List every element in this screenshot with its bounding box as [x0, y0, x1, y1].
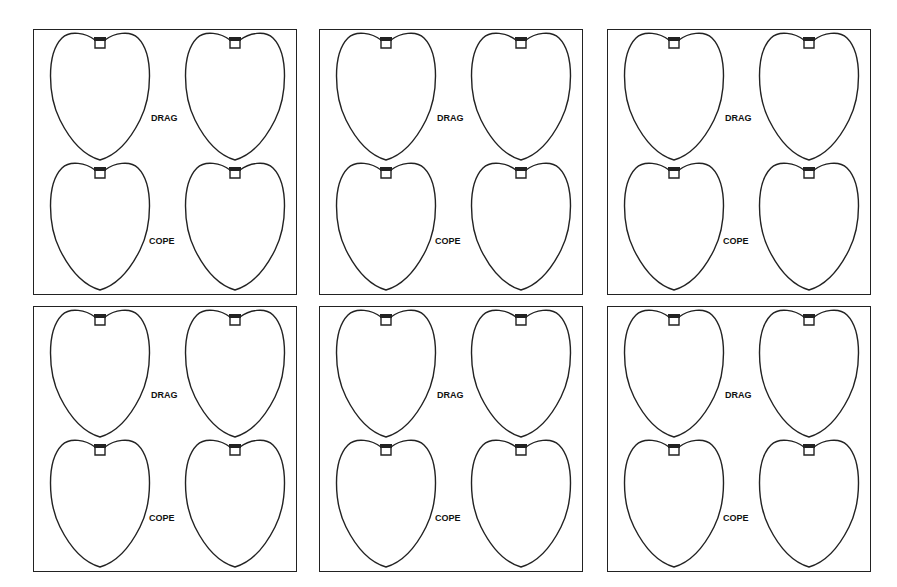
- stem-notch: [669, 317, 679, 325]
- apple-shape: [337, 310, 436, 437]
- stem-cap: [380, 314, 392, 318]
- stem-cap: [94, 167, 106, 171]
- stem-cap: [515, 444, 527, 448]
- stem-notch: [381, 170, 391, 178]
- stem-notch: [95, 317, 105, 325]
- pattern-panel: DRAGCOPE: [319, 29, 583, 295]
- stem-notch: [381, 317, 391, 325]
- cope-label: COPE: [149, 513, 175, 523]
- stem-notch: [669, 447, 679, 455]
- pattern-panel: DRAGCOPE: [607, 306, 871, 572]
- stem-notch: [381, 447, 391, 455]
- stem-notch: [669, 40, 679, 48]
- apple-shape: [760, 163, 859, 290]
- apple-shape: [186, 310, 285, 437]
- stem-notch: [95, 170, 105, 178]
- stem-notch: [230, 40, 240, 48]
- stem-cap: [380, 444, 392, 448]
- cope-label: COPE: [435, 513, 461, 523]
- apple-shape: [760, 33, 859, 160]
- apple-outlines: [34, 307, 298, 573]
- stem-notch: [804, 317, 814, 325]
- stem-notch: [230, 170, 240, 178]
- stem-cap: [668, 314, 680, 318]
- apple-shape: [337, 440, 436, 567]
- apple-shape: [625, 310, 724, 437]
- stem-notch: [516, 170, 526, 178]
- apple-shape: [760, 440, 859, 567]
- stem-cap: [380, 37, 392, 41]
- drag-label: DRAG: [437, 113, 464, 123]
- stem-cap: [515, 167, 527, 171]
- apple-shape: [51, 33, 150, 160]
- stem-cap: [229, 314, 241, 318]
- apple-shape: [186, 163, 285, 290]
- apple-shape: [337, 163, 436, 290]
- stem-cap: [668, 167, 680, 171]
- pattern-panel: DRAGCOPE: [319, 306, 583, 572]
- stem-notch: [95, 447, 105, 455]
- apple-outlines: [320, 30, 584, 296]
- stem-notch: [516, 447, 526, 455]
- stem-cap: [229, 37, 241, 41]
- drag-label: DRAG: [725, 113, 752, 123]
- apple-outlines: [34, 30, 298, 296]
- drag-label: DRAG: [725, 390, 752, 400]
- stem-cap: [94, 314, 106, 318]
- apple-shape: [625, 163, 724, 290]
- pattern-panel: DRAGCOPE: [33, 29, 297, 295]
- apple-outlines: [608, 307, 872, 573]
- stem-notch: [230, 317, 240, 325]
- apple-outlines: [608, 30, 872, 296]
- stem-cap: [668, 444, 680, 448]
- stem-cap: [229, 167, 241, 171]
- stem-cap: [515, 314, 527, 318]
- drag-label: DRAG: [151, 390, 178, 400]
- apple-shape: [472, 440, 571, 567]
- apple-shape: [51, 163, 150, 290]
- cope-label: COPE: [723, 236, 749, 246]
- stem-notch: [516, 317, 526, 325]
- pattern-panel: DRAGCOPE: [33, 306, 297, 572]
- apple-shape: [186, 33, 285, 160]
- cope-label: COPE: [435, 236, 461, 246]
- apple-shape: [51, 310, 150, 437]
- stem-cap: [803, 444, 815, 448]
- apple-shape: [51, 440, 150, 567]
- stem-notch: [230, 447, 240, 455]
- pattern-panel: DRAGCOPE: [607, 29, 871, 295]
- apple-outlines: [320, 307, 584, 573]
- stem-notch: [95, 40, 105, 48]
- stem-cap: [668, 37, 680, 41]
- stem-cap: [94, 37, 106, 41]
- cope-label: COPE: [149, 236, 175, 246]
- stem-cap: [515, 37, 527, 41]
- cope-label: COPE: [723, 513, 749, 523]
- apple-shape: [625, 440, 724, 567]
- drag-label: DRAG: [437, 390, 464, 400]
- apple-shape: [625, 33, 724, 160]
- drag-label: DRAG: [151, 113, 178, 123]
- apple-shape: [760, 310, 859, 437]
- apple-shape: [337, 33, 436, 160]
- stem-cap: [229, 444, 241, 448]
- apple-shape: [472, 33, 571, 160]
- stem-notch: [669, 170, 679, 178]
- stem-notch: [516, 40, 526, 48]
- apple-shape: [186, 440, 285, 567]
- stem-notch: [804, 447, 814, 455]
- stem-notch: [381, 40, 391, 48]
- stem-cap: [94, 444, 106, 448]
- stem-cap: [803, 167, 815, 171]
- stem-notch: [804, 40, 814, 48]
- apple-shape: [472, 310, 571, 437]
- apple-shape: [472, 163, 571, 290]
- stem-cap: [380, 167, 392, 171]
- stem-cap: [803, 37, 815, 41]
- stem-cap: [803, 314, 815, 318]
- stem-notch: [804, 170, 814, 178]
